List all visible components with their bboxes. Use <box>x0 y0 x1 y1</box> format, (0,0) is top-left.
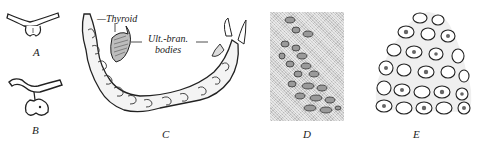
panel-e-illustration <box>0 0 482 143</box>
panel-e-label: E <box>413 128 420 140</box>
anatomical-figure: A B <box>0 0 482 143</box>
